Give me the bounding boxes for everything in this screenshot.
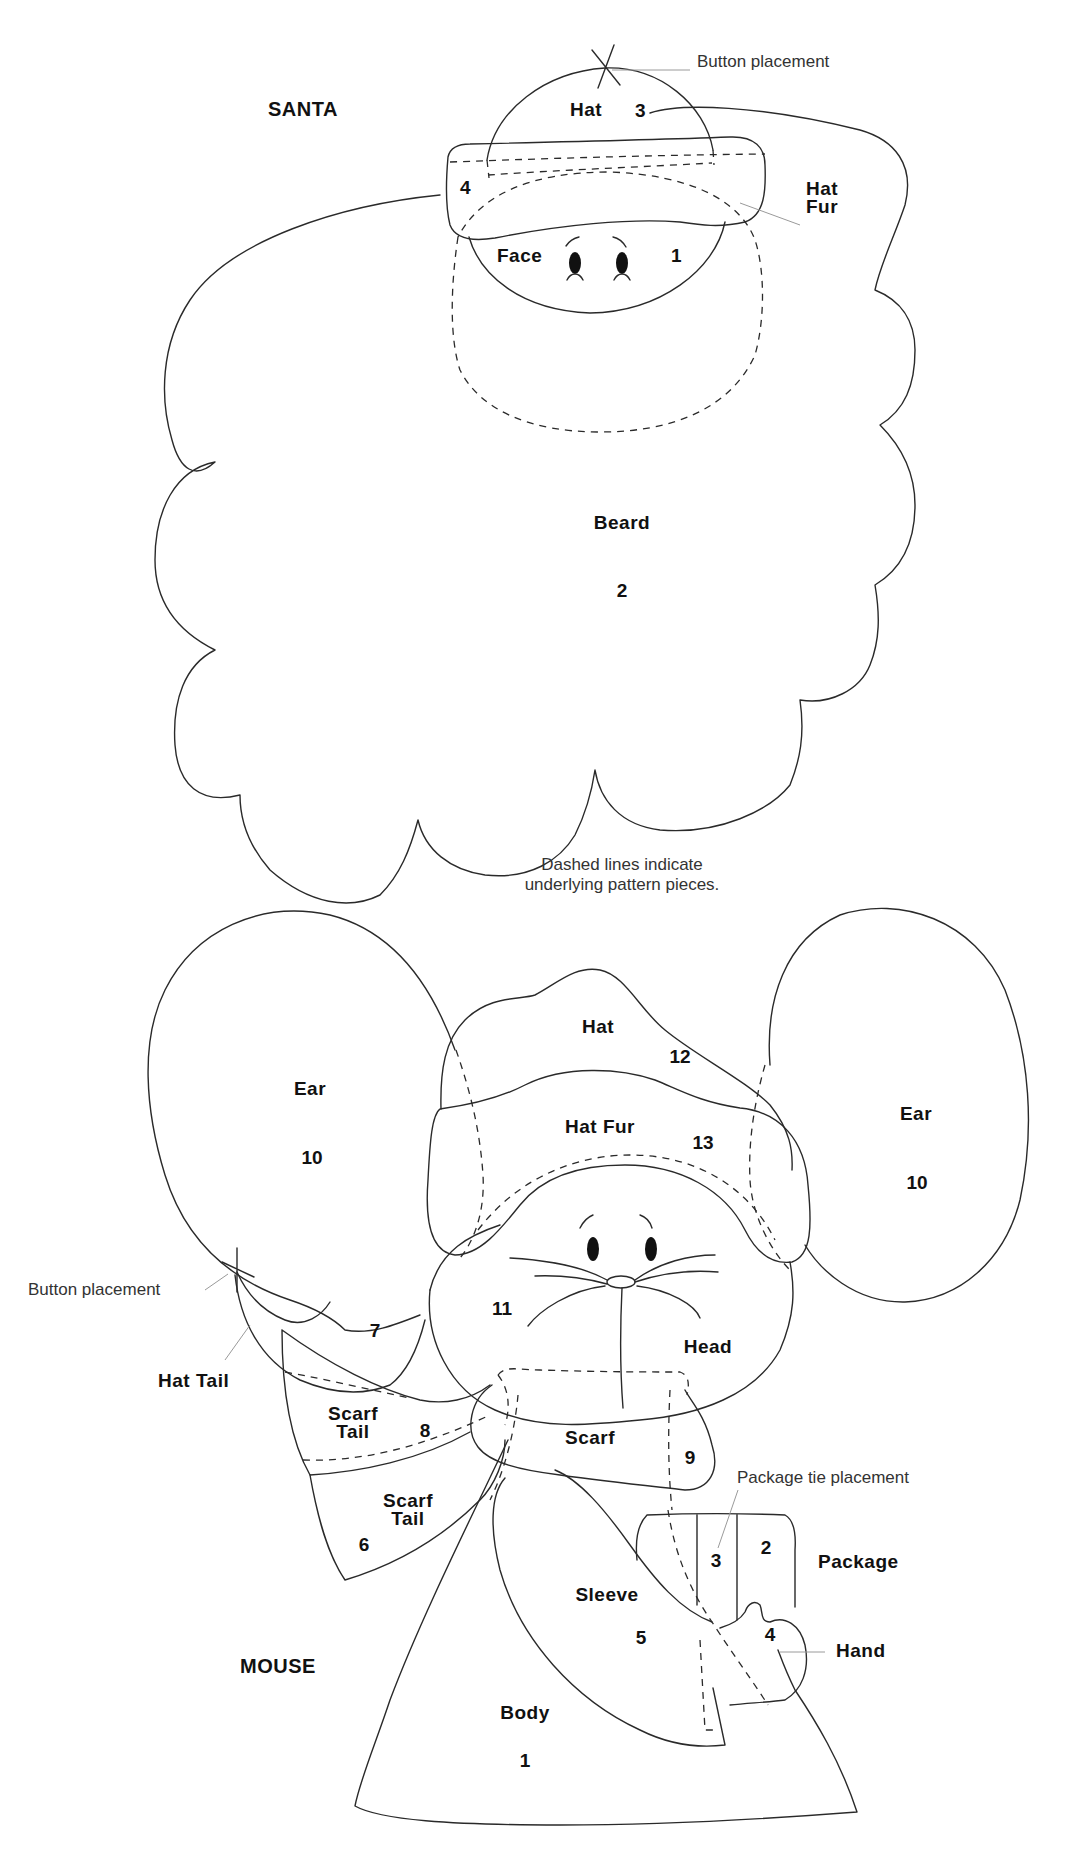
- santa-hat-number: 3: [635, 101, 646, 120]
- mouse-pattern: [148, 908, 1028, 1825]
- dashed-lines-note: Dashed lines indicate underlying pattern…: [525, 855, 720, 894]
- mouse-scarf-label: Scarf: [565, 1428, 615, 1447]
- mouse-hat-outline: [441, 969, 792, 1170]
- mouse-scarf-tail-upper-number: 8: [420, 1421, 431, 1440]
- santa-underlay-dashed-circle: [452, 172, 762, 432]
- mouse-scarf-number: 9: [685, 1448, 696, 1467]
- mouse-hat-tail-leader: [225, 1325, 250, 1360]
- mouse-right-eye-icon: [645, 1237, 657, 1261]
- santa-band-dashed-hat-sides: [487, 150, 714, 178]
- santa-beard-number: 2: [617, 581, 628, 600]
- mouse-scarf-tail-lower-label-line2: Tail: [383, 1510, 433, 1528]
- santa-pattern: [155, 45, 915, 903]
- mouse-scarf-tail-upper-dashed-top: [285, 1372, 410, 1398]
- santa-hat-label: Hat: [570, 100, 602, 119]
- mouse-hat-number: 12: [669, 1047, 690, 1066]
- mouse-hat-fur-dashed: [478, 1155, 775, 1240]
- santa-title: SANTA: [268, 98, 338, 121]
- santa-band-dashed-line-2: [488, 163, 712, 175]
- mouse-scarf-tail-lower-number: 6: [359, 1535, 370, 1554]
- mouse-button-cross-icon: [222, 1248, 254, 1292]
- mouse-hat-tail-label: Hat Tail: [158, 1371, 229, 1390]
- mouse-right-ear-label: Ear: [900, 1104, 932, 1123]
- mouse-hat-dashed-right: [750, 1065, 790, 1270]
- mouse-scarf-tail-upper-label: Scarf Tail: [328, 1405, 378, 1441]
- mouse-head-top: [430, 1225, 500, 1290]
- dashed-lines-note-line1: Dashed lines indicate: [525, 855, 720, 875]
- mouse-scarf-tail-upper-outline: [282, 1330, 490, 1475]
- mouse-button-placement-note: Button placement: [28, 1280, 160, 1300]
- mouse-body-label: Body: [500, 1703, 550, 1722]
- mouse-hat-fur-label: Hat Fur: [565, 1117, 635, 1136]
- mouse-right-ear-number: 10: [906, 1173, 927, 1192]
- mouse-eyebrows: [580, 1215, 652, 1228]
- santa-hat-fur-leader: [740, 203, 800, 225]
- santa-band-dashed-line-1: [450, 154, 765, 162]
- santa-face-label: Face: [497, 246, 542, 265]
- mouse-scarf-tail-upper-label-line2: Tail: [328, 1423, 378, 1441]
- santa-button-placement-note: Button placement: [697, 52, 829, 72]
- santa-hat-fur-number: 4: [460, 178, 471, 197]
- santa-button-cross-icon: [592, 45, 620, 88]
- santa-face-number: 1: [671, 246, 682, 265]
- mouse-package-tie-note: Package tie placement: [737, 1468, 909, 1488]
- mouse-hand-number: 4: [765, 1625, 776, 1644]
- mouse-hat-fur-number: 13: [692, 1133, 713, 1152]
- santa-eyebrows: [566, 237, 626, 247]
- mouse-head-number: 11: [492, 1299, 512, 1318]
- santa-eye-lashes: [567, 274, 630, 280]
- mouse-package-dashed: [668, 1510, 768, 1705]
- mouse-hat-label: Hat: [582, 1017, 614, 1036]
- mouse-hand-label: Hand: [836, 1641, 886, 1660]
- mouse-package-number-left: 3: [711, 1551, 722, 1570]
- santa-beard-outline: [155, 107, 915, 903]
- mouse-sleeve-cuff-dashed: [700, 1640, 718, 1730]
- mouse-left-ear-number: 10: [301, 1148, 322, 1167]
- pattern-artwork: [0, 0, 1076, 1857]
- mouse-hat-fur-outline: [427, 1070, 810, 1262]
- santa-right-eye-icon: [616, 252, 628, 274]
- santa-hat-fur-outline: [446, 137, 765, 240]
- mouse-hat-tail-number: 7: [370, 1321, 381, 1340]
- mouse-body-number: 1: [520, 1751, 531, 1770]
- mouse-head-label: Head: [684, 1337, 732, 1356]
- santa-hat-fur-label: Hat Fur: [806, 180, 838, 216]
- mouse-left-ear-label: Ear: [294, 1079, 326, 1098]
- mouse-package-number-right: 2: [761, 1538, 772, 1557]
- santa-left-eye-icon: [569, 252, 581, 274]
- mouse-title: MOUSE: [240, 1655, 316, 1678]
- mouse-package-label: Package: [818, 1552, 899, 1571]
- mouse-button-leader: [205, 1274, 228, 1290]
- mouse-left-eye-icon: [587, 1237, 599, 1261]
- mouse-scarf-tail-lower-label: Scarf Tail: [383, 1492, 433, 1528]
- santa-hat-fur-label-line2: Fur: [806, 198, 838, 216]
- mouse-hat-dashed-left: [456, 1050, 483, 1258]
- mouse-sleeve-label: Sleeve: [575, 1585, 638, 1604]
- mouse-sleeve-number: 5: [636, 1628, 647, 1647]
- mouse-left-ear-outline: [148, 911, 455, 1331]
- dashed-lines-note-line2: underlying pattern pieces.: [525, 875, 720, 895]
- mouse-package-tie-leader: [718, 1490, 738, 1548]
- mouse-nose-icon: [607, 1276, 635, 1288]
- santa-beard-label: Beard: [594, 513, 650, 532]
